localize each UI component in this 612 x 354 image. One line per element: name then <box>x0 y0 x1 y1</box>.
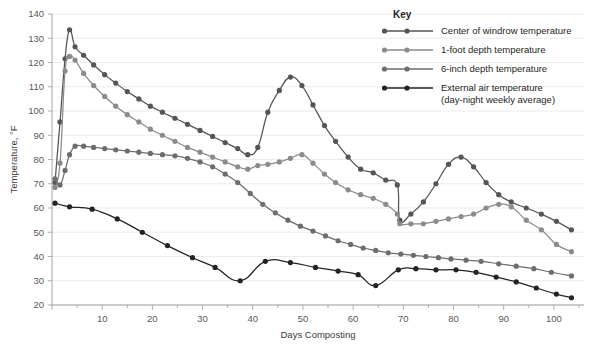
data-point <box>453 267 458 272</box>
data-point <box>288 156 293 161</box>
data-point <box>72 44 77 49</box>
data-point <box>446 216 451 221</box>
data-point <box>185 145 190 150</box>
data-point <box>113 104 118 109</box>
data-point <box>531 266 536 271</box>
data-point <box>335 238 340 243</box>
x-tick-label: 60 <box>348 313 359 324</box>
legend-entry-label: 1-foot depth temperature <box>441 44 546 55</box>
data-point <box>413 266 418 271</box>
data-point <box>496 261 501 266</box>
data-point <box>398 251 403 256</box>
data-point <box>172 139 177 144</box>
data-point <box>549 270 554 275</box>
data-point <box>299 83 304 88</box>
data-point <box>81 53 86 58</box>
data-point <box>346 154 351 159</box>
data-point <box>436 255 441 260</box>
data-point <box>554 291 559 296</box>
data-point <box>358 167 363 172</box>
y-tick-label: 120 <box>28 57 44 68</box>
data-point <box>569 227 574 232</box>
data-point <box>57 182 62 187</box>
data-point <box>397 221 402 226</box>
x-tick-label: 30 <box>197 313 208 324</box>
data-point <box>255 163 260 168</box>
series-line <box>55 203 571 298</box>
data-point <box>235 180 240 185</box>
composting-temperature-chart: 2030405060708090100110120130140102030405… <box>0 0 612 354</box>
data-point <box>333 180 338 185</box>
data-point <box>421 221 426 226</box>
data-point <box>81 144 86 149</box>
legend-title: Key <box>393 9 412 20</box>
data-point <box>197 159 202 164</box>
data-point <box>496 192 501 197</box>
data-point <box>52 185 57 190</box>
data-point <box>458 154 463 159</box>
data-point <box>81 71 86 76</box>
data-point <box>210 154 215 159</box>
data-point <box>102 94 107 99</box>
data-point <box>148 151 153 156</box>
data-point <box>371 196 376 201</box>
data-point <box>496 202 501 207</box>
x-tick-label: 100 <box>546 313 562 324</box>
data-point <box>288 74 293 79</box>
data-point <box>185 122 190 127</box>
data-point <box>333 139 338 144</box>
data-point <box>310 161 315 166</box>
x-tick-label: 40 <box>247 313 258 324</box>
x-tick-label: 80 <box>448 313 459 324</box>
data-point <box>125 148 130 153</box>
data-point <box>160 133 165 138</box>
data-point <box>288 260 293 265</box>
data-point <box>358 192 363 197</box>
data-point <box>471 211 476 216</box>
data-point <box>473 270 478 275</box>
legend-swatch-marker <box>404 85 409 90</box>
data-point <box>172 153 177 158</box>
data-point <box>408 221 413 226</box>
data-point <box>102 72 107 77</box>
data-point <box>223 140 228 145</box>
data-point <box>539 227 544 232</box>
legend-entry-0[interactable]: Center of windrow temperature <box>382 25 572 36</box>
data-point <box>433 181 438 186</box>
data-point <box>67 152 72 157</box>
data-point <box>322 171 327 176</box>
legend-entry-3[interactable]: External air temperature(day-night weekl… <box>382 82 555 105</box>
data-point <box>223 171 228 176</box>
legend-entry-1[interactable]: 1-foot depth temperature <box>382 44 546 55</box>
data-point <box>273 210 278 215</box>
data-point <box>91 83 96 88</box>
legend-entry-label: 6-inch depth temperature <box>441 63 547 74</box>
data-point <box>102 146 107 151</box>
data-point <box>67 204 72 209</box>
data-point <box>125 112 130 117</box>
data-point <box>277 159 282 164</box>
data-point <box>323 233 328 238</box>
x-tick-label: 70 <box>398 313 409 324</box>
data-point <box>479 259 484 264</box>
legend-entry-label: External air temperature <box>441 82 543 93</box>
data-point <box>298 224 303 229</box>
data-point <box>136 119 141 124</box>
legend-swatch-marker <box>404 66 409 71</box>
data-point <box>335 268 340 273</box>
legend-entry-2[interactable]: 6-inch depth temperature <box>382 63 547 74</box>
data-point <box>395 182 400 187</box>
data-point <box>421 199 426 204</box>
data-point <box>245 152 250 157</box>
data-point <box>91 145 96 150</box>
data-point <box>446 162 451 167</box>
y-tick-label: 130 <box>28 33 44 44</box>
data-point <box>113 147 118 152</box>
data-point <box>263 259 268 264</box>
data-point <box>356 272 361 277</box>
data-point <box>245 167 250 172</box>
data-point <box>383 178 388 183</box>
y-tick-label: 100 <box>28 105 44 116</box>
data-point <box>91 62 96 67</box>
legend-swatch-marker <box>382 85 387 90</box>
